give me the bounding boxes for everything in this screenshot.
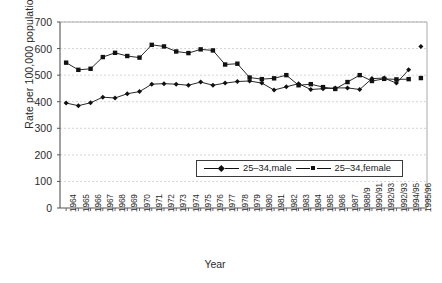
- plot-area: [0, 0, 442, 283]
- square-marker-icon: [310, 165, 317, 172]
- y-tick-100: 100: [18, 176, 52, 186]
- datapoint-female-1964: [64, 60, 68, 64]
- datapoint-male-1970: [137, 89, 142, 94]
- x-tick-1992-93: 1992/93: [387, 183, 396, 212]
- datapoint-male-1967: [100, 95, 105, 100]
- datapoint-female-1971: [150, 43, 154, 47]
- x-tick-1992-93: 1992/93: [400, 183, 409, 212]
- datapoint-female-1973: [174, 49, 178, 53]
- datapoint-female-1994-95: [406, 77, 410, 81]
- datapoint-female-1986: [333, 87, 337, 91]
- x-tick-1990-91: 1990/91: [375, 183, 384, 212]
- datapoint-male-1971: [149, 82, 154, 87]
- datapoint-female-1985: [321, 85, 325, 89]
- x-tick-1981: 1981: [277, 194, 286, 212]
- datapoint-female-1980: [260, 77, 264, 81]
- x-tick-1980: 1980: [265, 194, 274, 212]
- y-tick-500: 500: [18, 70, 52, 80]
- x-tick-1978: 1978: [241, 194, 250, 212]
- x-tick-1987: 1987: [351, 194, 360, 212]
- datapoint-female-1974: [186, 51, 190, 55]
- x-tick-1988-9: 1988/9: [363, 188, 372, 212]
- diamond-marker-icon: [218, 165, 225, 172]
- x-tick-1994-95: 1994/95: [412, 183, 421, 212]
- x-tick-1968: 1968: [118, 194, 127, 212]
- legend-label-male: 25–34,male: [239, 163, 296, 173]
- x-tick-1975: 1975: [204, 194, 213, 212]
- x-tick-1984: 1984: [314, 194, 323, 212]
- datapoint-male-1981: [272, 88, 277, 93]
- datapoint-female-1990-91: [370, 79, 374, 83]
- x-tick-1969: 1969: [130, 194, 139, 212]
- x-tick-1979: 1979: [253, 194, 262, 212]
- legend-line-male-2: [225, 168, 239, 169]
- datapoint-male-1975: [198, 80, 203, 85]
- datapoint-male-1972: [161, 81, 166, 86]
- legend-item-male: 25–34,male: [204, 163, 296, 173]
- x-tick-1967: 1967: [106, 194, 115, 212]
- datapoint-male-1987: [345, 85, 350, 90]
- legend-item-female: 25–34,female: [296, 163, 395, 173]
- datapoint-female-1965: [76, 68, 80, 72]
- datapoint-male-1965: [76, 103, 81, 108]
- datapoint-female-1988-9: [358, 73, 362, 77]
- x-tick-1985: 1985: [326, 194, 335, 212]
- datapoint-female-1995-96: [419, 76, 423, 80]
- y-tick-400: 400: [18, 97, 52, 107]
- chart-legend: 25–34,male 25–34,female: [196, 160, 403, 177]
- datapoint-female-1982: [284, 73, 288, 77]
- datapoint-female-1977: [223, 62, 227, 66]
- x-tick-1976: 1976: [216, 194, 225, 212]
- legend-label-female: 25–34,female: [331, 163, 395, 173]
- datapoint-female-1975: [198, 47, 202, 51]
- datapoint-male-1984: [308, 87, 313, 92]
- datapoint-male-1974: [186, 83, 191, 88]
- datapoint-male-1964: [64, 101, 69, 106]
- datapoint-female-1966: [88, 67, 92, 71]
- legend-line-female-2: [317, 168, 331, 169]
- y-tick-600: 600: [18, 44, 52, 54]
- datapoint-male-1982: [284, 84, 289, 89]
- x-axis-title: Year: [0, 258, 442, 270]
- datapoint-female-1981: [272, 76, 276, 80]
- datapoint-male-1966: [88, 100, 93, 105]
- datapoint-male-1978: [235, 79, 240, 84]
- datapoint-male-1968: [113, 95, 118, 100]
- legend-line-female: [296, 168, 310, 169]
- datapoint-male-1976: [210, 83, 215, 88]
- datapoint-female-1976: [211, 48, 215, 52]
- y-tick-700: 700: [18, 17, 52, 27]
- datapoint-female-1969: [125, 54, 129, 58]
- x-tick-1986: 1986: [338, 194, 347, 212]
- x-axis-title-text: Year: [204, 258, 225, 270]
- y-tick-300: 300: [18, 123, 52, 133]
- chart-container: Rate per 100,000 population 010020030040…: [0, 0, 442, 283]
- x-tick-1995-96: 1995/96: [424, 183, 433, 212]
- x-tick-1974: 1974: [192, 194, 201, 212]
- x-tick-1982: 1982: [290, 194, 299, 212]
- x-tick-1971: 1971: [155, 194, 164, 212]
- datapoint-female-1987: [345, 80, 349, 84]
- legend-line-male: [204, 168, 218, 169]
- datapoint-female-1984: [309, 82, 313, 86]
- datapoint-female-1972: [162, 44, 166, 48]
- datapoint-female-1970: [137, 55, 141, 59]
- x-tick-1972: 1972: [167, 194, 176, 212]
- x-tick-1973: 1973: [179, 194, 188, 212]
- x-tick-1966: 1966: [94, 194, 103, 212]
- datapoint-female-1978: [235, 62, 239, 66]
- datapoint-male-1977: [223, 81, 228, 86]
- x-tick-1983: 1983: [302, 194, 311, 212]
- x-tick-1964: 1964: [69, 194, 78, 212]
- y-tick-0: 0: [18, 203, 52, 213]
- datapoint-female-1968: [113, 51, 117, 55]
- y-tick-200: 200: [18, 150, 52, 160]
- datapoint-female-1979: [247, 75, 251, 79]
- datapoint-male-1973: [174, 82, 179, 87]
- x-tick-1970: 1970: [143, 194, 152, 212]
- datapoint-female-1992-93: [382, 77, 386, 81]
- datapoint-male-1995-96: [418, 44, 423, 49]
- x-tick-1965: 1965: [82, 194, 91, 212]
- x-tick-1977: 1977: [228, 194, 237, 212]
- datapoint-female-1992-93: [394, 77, 398, 81]
